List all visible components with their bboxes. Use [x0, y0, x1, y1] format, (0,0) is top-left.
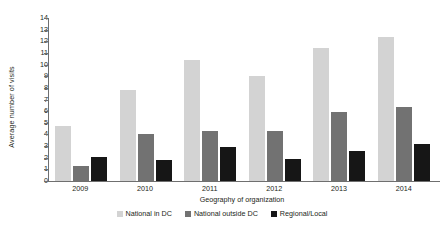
y-axis-tick-mark — [44, 18, 48, 19]
bar — [313, 48, 329, 181]
bar — [378, 37, 394, 181]
bar-group-2013 — [307, 18, 372, 181]
bar — [120, 90, 136, 181]
legend-swatch-icon — [185, 211, 191, 217]
bar-groups — [49, 18, 436, 181]
y-axis-tick-mark — [44, 123, 48, 124]
y-axis-tick-mark — [44, 134, 48, 135]
bar — [249, 76, 265, 181]
y-axis-tick-mark — [44, 41, 48, 42]
bar — [414, 144, 430, 181]
bar — [331, 112, 347, 181]
bar — [220, 147, 236, 181]
bar — [202, 131, 218, 181]
bar — [91, 157, 107, 181]
y-axis-tick-mark — [44, 146, 48, 147]
bar — [267, 131, 283, 181]
bar — [349, 151, 365, 181]
bar — [396, 107, 412, 182]
y-axis-tick-mark — [44, 53, 48, 54]
plot-area: 14131211109876543210 — [48, 18, 436, 182]
y-axis-tick-mark — [44, 181, 48, 182]
legend-item: National in DC — [117, 209, 172, 218]
x-axis-tick-label: 2014 — [371, 184, 436, 193]
bar-group-2011 — [178, 18, 243, 181]
legend-item: Regional/Local — [271, 209, 328, 218]
bar — [73, 166, 89, 181]
x-axis-labels: 200920102011201220132014 — [48, 184, 436, 193]
bar-chart: Average number of visits 141312111098765… — [0, 0, 444, 227]
x-axis-tick-label: 2013 — [307, 184, 372, 193]
y-axis-tick-mark — [44, 76, 48, 77]
bar — [55, 126, 71, 181]
y-axis-tick-mark — [44, 88, 48, 89]
bar-group-2009 — [49, 18, 114, 181]
bar — [285, 159, 301, 181]
bar-group-2012 — [243, 18, 308, 181]
y-axis-tick-mark — [44, 111, 48, 112]
legend-item: National outside DC — [185, 209, 258, 218]
y-axis-tick-mark — [44, 100, 48, 101]
bar-group-2010 — [114, 18, 179, 181]
chart-legend: National in DCNational outside DCRegiona… — [0, 209, 444, 218]
legend-label: National in DC — [126, 209, 172, 218]
legend-swatch-icon — [117, 211, 123, 217]
y-axis-tick-mark — [44, 30, 48, 31]
legend-swatch-icon — [271, 211, 277, 217]
bar — [156, 160, 172, 181]
legend-label: Regional/Local — [280, 209, 328, 218]
x-axis-tick-label: 2011 — [177, 184, 242, 193]
x-axis-tick-label: 2009 — [48, 184, 113, 193]
x-axis-tick-label: 2010 — [113, 184, 178, 193]
y-axis-tick-mark — [44, 169, 48, 170]
x-axis-tick-label: 2012 — [242, 184, 307, 193]
y-axis-tick-mark — [44, 158, 48, 159]
x-axis-line — [48, 181, 440, 182]
y-axis-title: Average number of visits — [5, 22, 19, 192]
legend-label: National outside DC — [194, 209, 258, 218]
y-axis-tick-mark — [44, 65, 48, 66]
x-axis-title: Geography of organization — [48, 195, 436, 204]
bar — [184, 60, 200, 181]
bar-group-2014 — [372, 18, 437, 181]
bar — [138, 134, 154, 181]
